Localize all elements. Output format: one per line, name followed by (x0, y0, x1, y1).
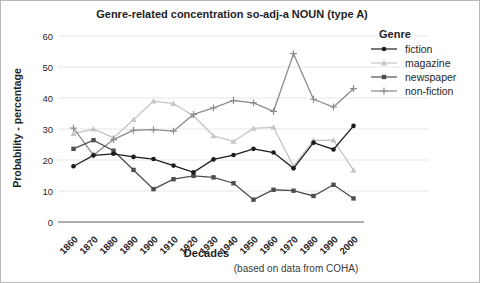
y-tick-label: 50 (42, 62, 53, 73)
source-caption: (based on data from COHA) (161, 263, 431, 274)
legend-label: newspaper (405, 71, 456, 83)
chart-figure: Genre-related concentration so-adj-a NOU… (0, 0, 480, 283)
magazine-line-sample-icon (369, 57, 399, 69)
legend-item-magazine: magazine (369, 56, 456, 70)
y-tick-label: 30 (42, 124, 53, 135)
legend-label: non-fiction (405, 85, 453, 97)
legend-item-fiction: fiction (369, 42, 456, 56)
x-axis-title: Decades (59, 247, 354, 259)
y-tick-label: 20 (42, 155, 53, 166)
legend-item-nonfiction: non-fiction (369, 84, 456, 98)
legend-label: magazine (405, 57, 451, 69)
legend-title: Genre (379, 28, 456, 40)
newspaper-line-sample-icon (369, 71, 399, 83)
legend: Genre fiction magazine newspaper non-fic… (369, 28, 456, 98)
y-tick-label: 60 (42, 31, 53, 42)
y-tick-label: 40 (42, 93, 53, 104)
y-tick-label: 10 (42, 186, 53, 197)
non-fiction-line-sample-icon (369, 85, 399, 97)
legend-label: fiction (405, 43, 432, 55)
fiction-line-sample-icon (369, 43, 399, 55)
legend-item-newspaper: newspaper (369, 70, 456, 84)
y-axis-title: Probability - percentage (11, 28, 25, 228)
y-tick-label: 0 (48, 217, 53, 228)
series-newspaper (71, 138, 355, 202)
